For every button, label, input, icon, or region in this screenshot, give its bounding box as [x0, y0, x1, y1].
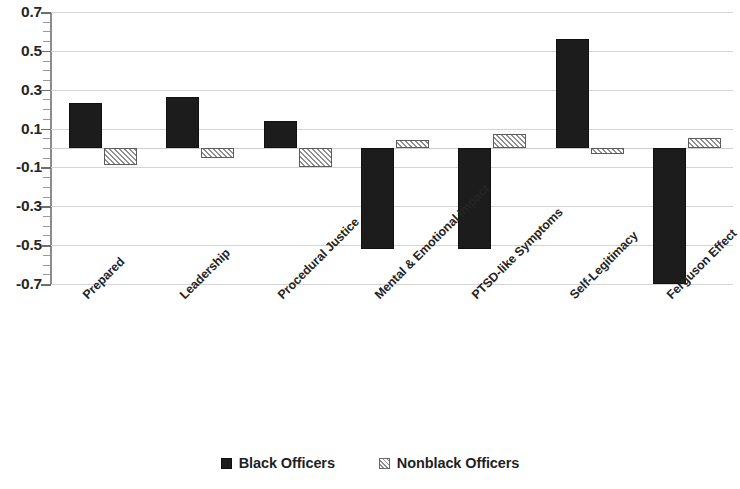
y-tick-label: 0.3	[21, 81, 42, 99]
y-axis-minor-tick	[43, 187, 50, 188]
bar	[556, 39, 589, 148]
y-axis-major-tick	[41, 129, 51, 131]
y-axis-minor-tick	[43, 216, 50, 217]
bar	[396, 140, 429, 148]
bar	[201, 148, 234, 158]
y-axis-minor-tick	[43, 99, 50, 100]
y-axis-minor-tick	[43, 265, 50, 266]
legend-item[interactable]: Nonblack Officers	[379, 455, 519, 471]
hatched-square-icon	[379, 458, 390, 469]
solid-square-icon	[221, 458, 232, 469]
y-axis-major-tick	[41, 245, 51, 247]
x-axis-labels: PreparedLeadershipProcedural JusticeMent…	[51, 286, 733, 416]
bar	[493, 134, 526, 148]
y-axis-major-tick	[41, 167, 51, 169]
y-axis-minor-tick	[43, 22, 50, 23]
bar	[299, 148, 332, 167]
y-axis-major-tick	[41, 12, 51, 14]
y-tick-label: -0.7	[16, 275, 42, 293]
legend-item-label: Nonblack Officers	[397, 455, 519, 471]
y-axis-major-tick	[41, 284, 51, 286]
y-axis-minor-tick	[43, 226, 50, 227]
bar	[653, 148, 686, 284]
y-axis-minor-tick	[43, 148, 50, 149]
y-axis-labels: 0.70.50.30.1-0.1-0.3-0.5-0.7	[0, 0, 46, 489]
y-axis-minor-tick	[43, 61, 50, 62]
legend-item-label: Black Officers	[239, 455, 335, 471]
bar	[166, 97, 199, 148]
y-tick-label: -0.5	[16, 236, 42, 254]
y-axis-minor-tick	[43, 119, 50, 120]
y-axis-minor-tick	[43, 255, 50, 256]
y-axis-major-tick	[41, 51, 51, 53]
y-axis-minor-tick	[43, 80, 50, 81]
bar	[688, 138, 721, 148]
y-tick-label: -0.1	[16, 158, 42, 176]
y-axis-minor-tick	[43, 235, 50, 236]
bar	[591, 148, 624, 154]
legend-item[interactable]: Black Officers	[221, 455, 335, 471]
y-axis-minor-tick	[43, 274, 50, 275]
y-tick-label: 0.1	[21, 120, 42, 138]
y-tick-label: 0.7	[21, 3, 42, 21]
y-axis-minor-tick	[43, 177, 50, 178]
bar	[361, 148, 394, 249]
y-tick-label: 0.5	[21, 42, 42, 60]
y-axis-minor-tick	[43, 41, 50, 42]
y-axis-minor-tick	[43, 138, 50, 139]
y-axis-minor-tick	[43, 197, 50, 198]
y-axis-minor-tick	[43, 109, 50, 110]
bar	[104, 148, 137, 165]
bar	[264, 121, 297, 148]
y-axis-major-tick	[41, 90, 51, 92]
y-tick-label: -0.3	[16, 197, 42, 215]
bar	[69, 103, 102, 148]
bar-chart-figure: 0.70.50.30.1-0.1-0.3-0.5-0.7 PreparedLea…	[0, 0, 740, 489]
y-axis-minor-tick	[43, 31, 50, 32]
y-axis-minor-tick	[43, 158, 50, 159]
y-axis-ticks	[43, 12, 51, 284]
y-axis-minor-tick	[43, 70, 50, 71]
chart-legend: Black OfficersNonblack Officers	[0, 455, 740, 471]
y-axis-major-tick	[41, 206, 51, 208]
